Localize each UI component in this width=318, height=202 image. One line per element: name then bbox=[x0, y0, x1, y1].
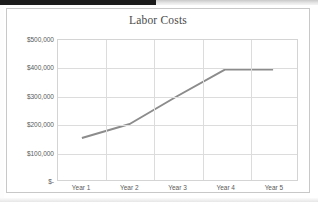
gridline-vertical bbox=[106, 40, 107, 180]
scan-artifact-band-light bbox=[156, 0, 318, 5]
gridline-horizontal bbox=[58, 68, 297, 69]
y-axis-tick-label: $500,000 bbox=[10, 36, 54, 43]
scan-artifact-bottom-edge bbox=[0, 198, 318, 202]
x-axis: Year 1Year 2Year 3Year 4Year 5 bbox=[57, 184, 298, 198]
y-axis-tick-label: $- bbox=[10, 178, 54, 185]
series-line-labor-costs bbox=[58, 40, 297, 180]
y-axis: $500,000$400,000$300,000$200,000$100,000… bbox=[7, 39, 54, 181]
y-axis-tick-label: $100,000 bbox=[10, 149, 54, 156]
gridline-vertical bbox=[251, 40, 252, 180]
x-axis-tick-label: Year 4 bbox=[202, 184, 250, 198]
gridline-horizontal bbox=[58, 97, 297, 98]
plot-area bbox=[57, 39, 298, 181]
x-axis-tick-label: Year 2 bbox=[105, 184, 153, 198]
chart-container: Labor Costs $500,000$400,000$300,000$200… bbox=[6, 8, 310, 193]
gridline-horizontal bbox=[58, 154, 297, 155]
x-axis-tick-label: Year 5 bbox=[250, 184, 298, 198]
x-axis-tick-label: Year 3 bbox=[153, 184, 201, 198]
scan-artifact-left-edge bbox=[0, 5, 4, 202]
gridline-vertical bbox=[203, 40, 204, 180]
chart-title: Labor Costs bbox=[7, 14, 309, 26]
y-axis-tick-label: $300,000 bbox=[10, 92, 54, 99]
y-axis-tick-label: $200,000 bbox=[10, 121, 54, 128]
y-axis-tick-label: $400,000 bbox=[10, 64, 54, 71]
gridline-horizontal bbox=[58, 125, 297, 126]
x-axis-tick-label: Year 1 bbox=[57, 184, 105, 198]
gridline-vertical bbox=[154, 40, 155, 180]
scan-artifact-band-dark bbox=[0, 0, 156, 5]
